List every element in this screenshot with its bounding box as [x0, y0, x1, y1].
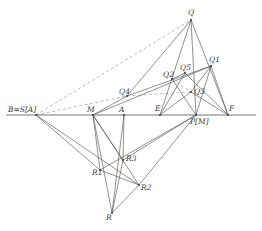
segment-B-to-R1 — [36, 115, 100, 170]
point-B — [35, 114, 37, 116]
dashed-segments-group — [36, 20, 191, 115]
point-A — [123, 114, 125, 116]
geometry-figure: B=S[A] M A E P[M] F Q Q1 Q2 Q3 Q4 Q5 R R… — [0, 0, 262, 231]
label-F: F — [228, 104, 235, 113]
point-R2 — [138, 184, 140, 186]
segment-B-to-Q4 — [36, 96, 127, 115]
geometry-canvas: B=S[A] M A E P[M] F Q Q1 Q2 Q3 Q4 Q5 R R… — [0, 0, 262, 231]
point-Q1 — [210, 65, 212, 67]
point-Q3 — [190, 91, 192, 93]
point-Q5 — [184, 72, 186, 74]
point-R3 — [122, 159, 124, 161]
label-Q2: Q2 — [163, 70, 174, 79]
label-P: P[M] — [189, 117, 209, 126]
point-P — [195, 114, 197, 116]
segment-Q1-to-F — [211, 66, 228, 115]
label-M: M — [86, 105, 95, 114]
label-R1: R1 — [91, 168, 102, 177]
label-R: R — [105, 213, 112, 222]
label-Q4: Q4 — [119, 87, 130, 96]
label-Q1: Q1 — [209, 55, 220, 64]
label-Q5: Q5 — [180, 63, 191, 72]
label-R2: R2 — [140, 183, 152, 192]
label-E: E — [154, 104, 161, 113]
segment-Q3-to-E — [160, 92, 191, 115]
point-M — [92, 114, 94, 116]
segment-R1-to-P — [100, 115, 196, 170]
point-Q — [190, 19, 192, 21]
label-Q: Q — [188, 8, 194, 17]
label-R3: R3 — [125, 154, 137, 163]
segment-R-to-R2 — [112, 185, 139, 213]
label-B: B=S[A] — [7, 105, 36, 114]
label-Q3: Q3 — [194, 87, 205, 96]
segment-M-to-R1 — [93, 115, 100, 170]
point-F — [227, 114, 229, 116]
segment-R2-to-P — [139, 115, 196, 185]
point-E — [159, 114, 161, 116]
segment-B-to-Q — [36, 20, 191, 115]
segment-Q-to-P — [191, 20, 196, 115]
label-A: A — [118, 105, 125, 114]
